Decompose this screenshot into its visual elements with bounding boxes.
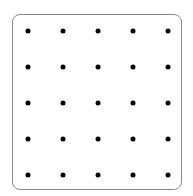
grid-dot [26, 29, 31, 34]
grid-dot [166, 29, 171, 34]
grid-dot [131, 65, 136, 70]
grid-dot [131, 137, 136, 142]
grid-dot [96, 137, 101, 142]
grid-dot [166, 137, 171, 142]
grid-dot [131, 29, 136, 34]
grid-dot [96, 29, 101, 34]
grid-dot [26, 173, 31, 178]
grid-dot [131, 101, 136, 106]
grid-dot [96, 101, 101, 106]
grid-dot [131, 173, 136, 178]
grid-dot [26, 101, 31, 106]
grid-dot [166, 65, 171, 70]
grid-dot [96, 173, 101, 178]
grid-dot [61, 65, 66, 70]
grid-dot [26, 65, 31, 70]
grid-dot [61, 137, 66, 142]
grid-dot [96, 65, 101, 70]
grid-dot [61, 173, 66, 178]
grid-dot [61, 101, 66, 106]
grid-dot [166, 101, 171, 106]
grid-dot [166, 173, 171, 178]
grid-dot [26, 137, 31, 142]
grid-dot [61, 29, 66, 34]
